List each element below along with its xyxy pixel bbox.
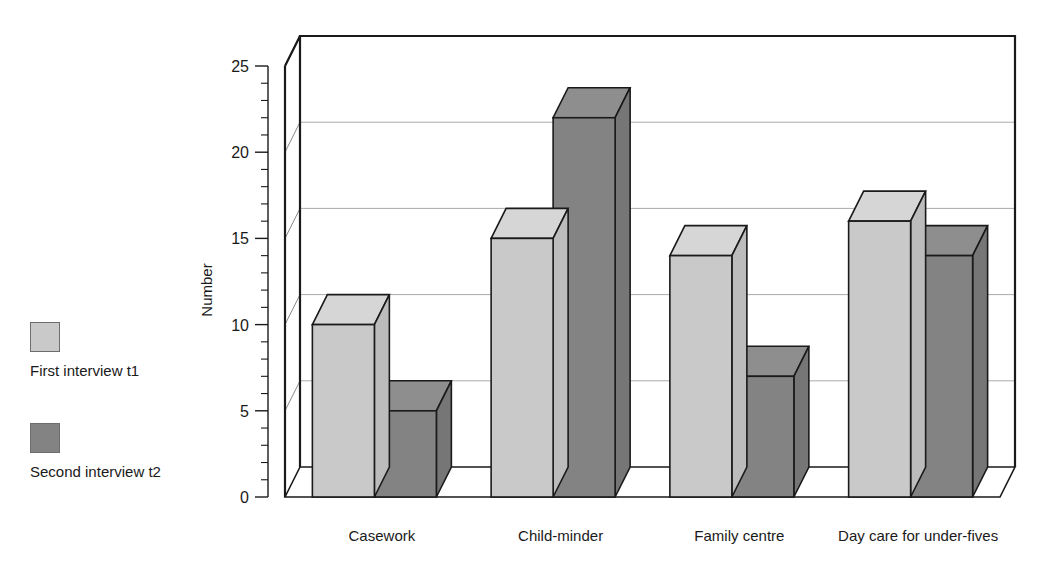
y-tick-label: 10 <box>231 317 249 334</box>
y-tick-label: 5 <box>240 403 249 420</box>
bar-2-first-interview[interactable] <box>670 226 747 497</box>
x-category-label-0: Casework <box>349 527 416 544</box>
y-axis-title: Number <box>198 263 215 316</box>
bar-1-first-interview[interactable] <box>491 208 568 497</box>
x-category-label-3: Day care for under-fives <box>838 527 998 544</box>
legend-entry-second-interview[interactable]: Second interview t2 <box>30 423 220 480</box>
legend-entry-first-interview[interactable]: First interview t1 <box>30 322 220 379</box>
y-tick-label: 15 <box>231 230 249 247</box>
legend-label-first-interview: First interview t1 <box>30 362 220 379</box>
x-category-label-2: Family centre <box>694 527 784 544</box>
y-tick-label: 0 <box>240 489 249 506</box>
bar-0-first-interview[interactable] <box>312 295 389 497</box>
y-tick-label: 20 <box>231 144 249 161</box>
y-tick-label: 25 <box>231 58 249 75</box>
chart-legend: First interview t1 Second interview t2 <box>30 322 220 524</box>
x-category-label-1: Child-minder <box>518 527 603 544</box>
bar-chart-figure: 0510152025NumberCaseworkChild-minderFami… <box>0 0 1051 577</box>
legend-swatch-first-interview <box>30 322 60 352</box>
bar-3-first-interview[interactable] <box>849 191 926 497</box>
legend-label-second-interview: Second interview t2 <box>30 463 220 480</box>
legend-swatch-second-interview <box>30 423 60 453</box>
